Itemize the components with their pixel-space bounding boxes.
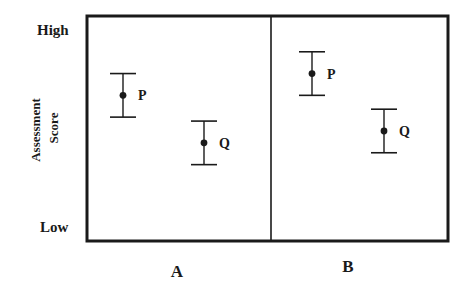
chart: High Low Assessment Score PQPQ A B xyxy=(0,0,468,290)
axis-labels: High Low Assessment Score xyxy=(28,22,69,235)
point-label-panel-b-p: P xyxy=(327,67,336,82)
panel-labels: A B xyxy=(171,257,354,281)
y-axis-label-line-2: Score xyxy=(46,112,61,143)
panel-label-b: B xyxy=(342,257,353,276)
data-point-panel-a-q xyxy=(201,139,208,146)
point-label-panel-b-q: Q xyxy=(399,124,410,139)
data-point-panel-a-p xyxy=(120,92,127,99)
error-bar-panel-b-q: Q xyxy=(371,109,410,153)
data-marks: PQPQ xyxy=(110,52,410,165)
data-point-panel-b-p xyxy=(309,70,316,77)
data-point-panel-b-q xyxy=(381,128,388,135)
y-axis-label-line-1: Assessment xyxy=(28,98,43,162)
point-label-panel-a-p: P xyxy=(138,88,147,103)
y-tick-high: High xyxy=(37,22,69,38)
error-bar-panel-b-p: P xyxy=(299,52,336,96)
plot-frame xyxy=(87,16,448,241)
point-label-panel-a-q: Q xyxy=(219,136,230,151)
error-bar-panel-a-p: P xyxy=(110,74,147,118)
y-tick-low: Low xyxy=(40,219,69,235)
panel-label-a: A xyxy=(171,262,184,281)
plot-border xyxy=(87,16,448,241)
error-bar-panel-a-q: Q xyxy=(191,121,230,165)
